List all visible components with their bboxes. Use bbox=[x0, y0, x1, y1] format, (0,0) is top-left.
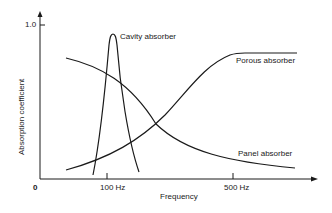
x-tick-label-500hz: 500 Hz bbox=[224, 184, 249, 192]
y-axis-label: Absorption coefficient bbox=[18, 79, 26, 155]
x-axis-label: Frequency bbox=[160, 193, 198, 201]
x-tick-label-100hz: 100 Hz bbox=[100, 184, 125, 192]
origin-label: 0 bbox=[33, 184, 37, 192]
y-axis-arrow-icon bbox=[38, 11, 43, 17]
porous-absorber-label: Porous absorber bbox=[236, 57, 295, 65]
cavity-absorber-label: Cavity absorber bbox=[120, 33, 176, 41]
panel-absorber-label: Panel absorber bbox=[238, 150, 292, 158]
cavity-absorber-curve bbox=[93, 34, 139, 175]
y-tick-label-1: 1.0 bbox=[25, 21, 36, 29]
x-axis-arrow-icon bbox=[311, 177, 318, 182]
